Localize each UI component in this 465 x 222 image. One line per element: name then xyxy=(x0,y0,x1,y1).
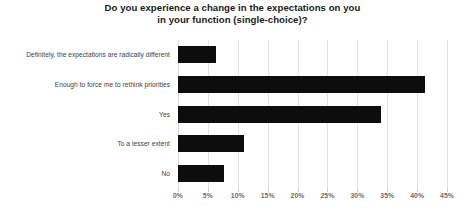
x-tick-label: 30% xyxy=(350,192,364,199)
chart-title: Do you experience a change in the expect… xyxy=(0,2,465,27)
value-axis: 0%5%10%15%20%25%30%35%40%45% xyxy=(178,192,447,204)
category-label: Yes xyxy=(159,100,170,130)
chart-title-line-2: in your function (single-choice)? xyxy=(0,14,465,26)
x-tick-label: 45% xyxy=(440,192,454,199)
x-tick-label: 35% xyxy=(380,192,394,199)
bar-chart: Do you experience a change in the expect… xyxy=(0,0,465,222)
bar xyxy=(178,46,216,63)
x-tick-label: 0% xyxy=(173,192,183,199)
x-tick-label: 5% xyxy=(203,192,213,199)
bar-row xyxy=(178,70,447,100)
category-label: Definitely, the expectations are radical… xyxy=(26,40,170,70)
category-label: To a lesser extent xyxy=(117,129,170,159)
plot-area xyxy=(178,40,447,189)
category-label: Enough to force me to rethink priorities xyxy=(55,70,170,100)
bar-row xyxy=(178,159,447,189)
category-label: No xyxy=(161,159,170,189)
gridline-45% xyxy=(447,40,448,189)
chart-title-line-1: Do you experience a change in the expect… xyxy=(0,2,465,14)
x-tick-label: 10% xyxy=(231,192,245,199)
bar xyxy=(178,76,425,93)
x-tick-label: 15% xyxy=(261,192,275,199)
x-tick-label: 25% xyxy=(320,192,334,199)
category-axis: Definitely, the expectations are radical… xyxy=(0,40,174,189)
x-tick-label: 20% xyxy=(291,192,305,199)
bar xyxy=(178,165,224,182)
bar xyxy=(178,106,381,123)
x-tick-label: 40% xyxy=(410,192,424,199)
bar-row xyxy=(178,40,447,70)
bar-row xyxy=(178,129,447,159)
bar-row xyxy=(178,100,447,130)
bar xyxy=(178,135,244,152)
